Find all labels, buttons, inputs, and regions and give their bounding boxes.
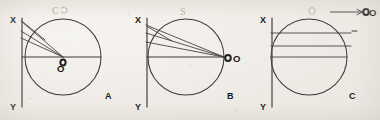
panel-a-point-label-layer: O <box>0 0 380 120</box>
point-label-o-a: O <box>57 63 64 74</box>
figure-sheet: C X Y A S X Y O B <box>0 0 380 120</box>
